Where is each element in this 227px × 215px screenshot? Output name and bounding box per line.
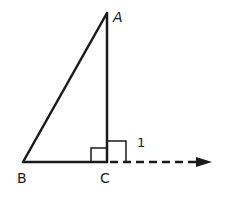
angle-label-1: 1 <box>137 136 145 149</box>
vertex-label-a: A <box>113 10 123 24</box>
right-angle-marker-exterior <box>107 141 126 162</box>
vertex-label-c: C <box>100 171 110 185</box>
right-angle-marker-interior <box>91 148 107 162</box>
triangle-diagram <box>0 0 227 215</box>
arrowhead-icon <box>196 157 212 167</box>
vertex-label-b: B <box>17 171 27 185</box>
side-ab <box>23 13 107 162</box>
